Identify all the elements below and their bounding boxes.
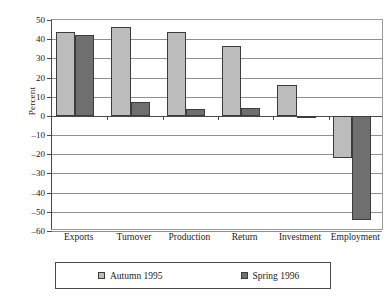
legend-entry-spring-1996: Spring 1996 xyxy=(241,271,300,281)
x-tick-2 xyxy=(218,116,219,120)
bar-employment-spring xyxy=(352,116,371,221)
y-tick-label-40: 40 xyxy=(15,34,45,44)
x-axis-label-return: Return xyxy=(232,232,258,242)
x-tick-4 xyxy=(329,116,330,120)
y-tick-label-20: 20 xyxy=(15,73,45,83)
x-tick-1 xyxy=(163,116,164,120)
x-axis-label-production: Production xyxy=(168,232,210,242)
x-tick-0 xyxy=(107,116,108,120)
x-axis-label-turnover: Turnover xyxy=(116,232,151,242)
bar-turnover-autumn xyxy=(111,27,130,116)
bar-investment-spring xyxy=(297,116,316,118)
legend-swatch-autumn-icon xyxy=(98,272,105,279)
legend-label-spring: Spring 1996 xyxy=(253,271,300,281)
y-tick-label-10: 10 xyxy=(15,92,45,102)
bar-return-autumn xyxy=(222,46,241,116)
bar-return-spring xyxy=(241,108,260,116)
x-axis-labels: ExportsTurnoverProductionReturnInvestmen… xyxy=(51,232,383,248)
bar-employment-autumn xyxy=(333,116,352,158)
bar-group-return xyxy=(218,20,273,229)
y-tick-label-50: 50 xyxy=(15,15,45,25)
bar-exports-spring xyxy=(75,35,94,116)
x-axis-label-employment: Employment xyxy=(331,232,380,242)
chart-legend: Autumn 1995 Spring 1996 xyxy=(55,262,331,289)
x-axis-label-investment: Investment xyxy=(279,232,321,242)
bar-investment-autumn xyxy=(277,85,296,116)
bar-group-employment xyxy=(329,20,384,229)
plot-area: 50403020100–10–20–30–40–50–60 xyxy=(51,19,383,230)
y-tick-label--30: –30 xyxy=(15,168,45,178)
y-tick-label--50: –50 xyxy=(15,207,45,217)
bar-production-autumn xyxy=(167,32,186,116)
x-axis-label-exports: Exports xyxy=(64,232,94,242)
bar-group-exports xyxy=(52,20,107,229)
bar-exports-autumn xyxy=(56,32,75,116)
x-tick-3 xyxy=(273,116,274,120)
bar-turnover-spring xyxy=(131,102,150,115)
y-tick-label-0: 0 xyxy=(15,111,45,121)
y-tick-label--60: –60 xyxy=(15,226,45,236)
legend-label-autumn: Autumn 1995 xyxy=(110,271,163,281)
y-tick-label--10: –10 xyxy=(15,130,45,140)
bar-chart-figure: Percent 50403020100–10–20–30–40–50–60 Ex… xyxy=(0,0,391,300)
y-tick-label--40: –40 xyxy=(15,188,45,198)
y-tick-label--20: –20 xyxy=(15,149,45,159)
y-tick-label-30: 30 xyxy=(15,53,45,63)
bar-production-spring xyxy=(186,109,205,116)
legend-swatch-spring-icon xyxy=(241,272,248,279)
bar-group-production xyxy=(163,20,218,229)
bar-series-container xyxy=(52,20,382,229)
bar-group-investment xyxy=(273,20,328,229)
bar-group-turnover xyxy=(107,20,162,229)
legend-entry-autumn-1995: Autumn 1995 xyxy=(98,271,163,281)
